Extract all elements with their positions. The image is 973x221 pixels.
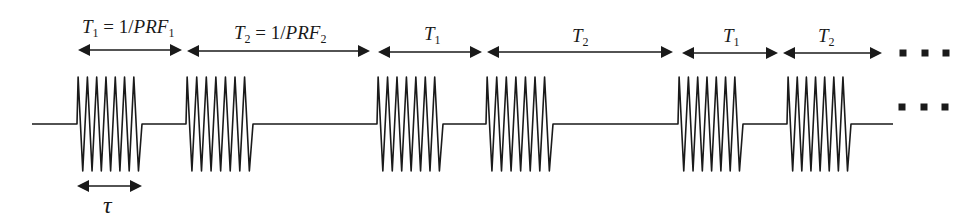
continuation-ellipsis [899, 50, 950, 111]
arrowhead-right-icon [358, 45, 370, 57]
period-arrow-4 [487, 46, 673, 58]
ellipsis-dot-icon [900, 50, 907, 57]
label-period2-b: T2 [818, 26, 835, 45]
arrowhead-right-icon [470, 46, 482, 58]
label-period1-b: T1 [723, 26, 740, 45]
arrowhead-right-icon [130, 180, 142, 192]
arrowhead-left-icon [783, 47, 795, 59]
subscript: 2 [583, 35, 589, 49]
pulse-width-arrow [77, 180, 142, 192]
arrowhead-left-icon [187, 45, 199, 57]
symbol-T: T [572, 25, 583, 46]
arrowhead-left-icon [378, 46, 390, 58]
arrowhead-left-icon [77, 180, 89, 192]
ellipsis-dot-icon [942, 104, 949, 111]
period-arrow-3 [378, 46, 482, 58]
arrowhead-left-icon [487, 46, 499, 58]
ellipsis-dot-icon [943, 50, 950, 57]
symbol-T: T [234, 22, 245, 43]
symbol-T: T [424, 23, 435, 44]
subscript: 2 [829, 35, 835, 49]
equals-text: = 1/ [99, 16, 134, 37]
arrowhead-right-icon [661, 46, 673, 58]
arrowhead-right-icon [170, 44, 182, 56]
arrowhead-left-icon [78, 44, 90, 56]
symbol-T: T [82, 16, 93, 37]
ellipsis-dot-icon [921, 104, 928, 111]
period-arrow-1 [78, 44, 182, 56]
subscript: 1 [734, 35, 740, 49]
pulse-waveform [32, 77, 893, 171]
symbol-T: T [723, 25, 734, 46]
ellipsis-dot-icon [922, 50, 929, 57]
symbol-T: T [818, 25, 829, 46]
symbol-PRF: PRF [286, 22, 321, 43]
arrowhead-right-icon [870, 47, 882, 59]
period-arrow-5 [682, 47, 778, 59]
period-arrows [78, 44, 882, 59]
label-pulse-width-tau: τ [103, 193, 112, 217]
subscript: 1 [168, 26, 174, 40]
symbol-PRF: PRF [134, 16, 169, 37]
arrowhead-right-icon [766, 47, 778, 59]
label-period1-a: T1 [424, 24, 441, 43]
ellipsis-dot-icon [899, 104, 906, 111]
label-period2-a: T2 [572, 26, 589, 45]
label-period1-prf: T1 = 1/PRF1 [82, 17, 174, 36]
subscript: 2 [320, 32, 326, 46]
tau-arrow [77, 180, 142, 192]
period-arrow-2 [187, 45, 370, 57]
label-period2-prf: T2 = 1/PRF2 [234, 23, 326, 42]
subscript: 1 [435, 33, 441, 47]
equals-text: = 1/ [251, 22, 286, 43]
arrowhead-left-icon [682, 47, 694, 59]
